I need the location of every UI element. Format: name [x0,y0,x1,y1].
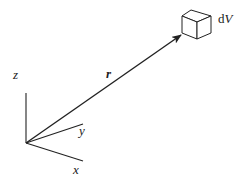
coordinate-axes [26,93,83,161]
volume-element-label: dV [218,12,232,25]
x-axis-label: x [73,163,79,176]
y-axis [26,124,83,143]
volume-element-cube [182,10,211,39]
position-vector-arrow [26,35,181,143]
z-axis-label: z [13,68,18,81]
x-axis [26,143,83,161]
diagram-svg [0,0,247,176]
diagram-canvas: z y x r dV [0,0,247,176]
y-axis-label: y [79,124,85,137]
volume-element-v: V [225,11,233,26]
position-vector-label: r [106,67,111,80]
